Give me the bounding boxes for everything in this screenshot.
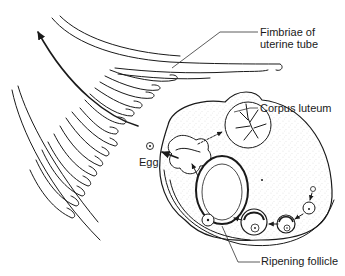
label-ripening-follicle: Ripening follicle [261,255,338,267]
label-corpus-luteum: Corpus luteum [260,102,332,114]
fimbriae-lower [12,86,117,240]
egg [147,143,154,150]
sweep-arrow [38,32,138,126]
label-fimbriae: Fimbriae of uterine tube [260,26,318,50]
label-fimbriae-line1: Fimbriae of [260,26,318,38]
label-egg: Egg [139,156,159,168]
uterine-tube [52,16,282,79]
label-fimbriae-line2: uterine tube [260,38,318,50]
graafian-follicle [196,156,248,226]
